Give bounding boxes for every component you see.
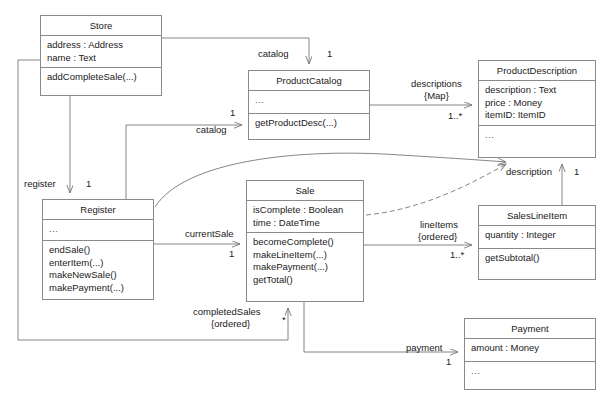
operation: getTotal() xyxy=(253,274,357,287)
class-box-store[interactable]: Store address : Address name : Text addC… xyxy=(40,15,162,96)
association-constraint-sale-lineitems: {ordered} xyxy=(418,231,457,243)
operation: makeNewSale() xyxy=(49,269,147,282)
class-operations-register: endSale() enterItem(...) makeNewSale() m… xyxy=(43,241,153,297)
operation: addCompleteSale(...) xyxy=(47,71,155,84)
association-multiplicity-store-catalog: 1 xyxy=(327,48,332,59)
class-name-store: Store xyxy=(41,16,161,36)
association-multiplicity-catalog-descriptions: 1..* xyxy=(448,110,462,121)
class-name-sales-line-item: SalesLineItem xyxy=(479,206,595,226)
attribute: name : Text xyxy=(47,52,155,65)
class-name-product-catalog: ProductCatalog xyxy=(249,71,369,91)
association-multiplicity-store-register: 1 xyxy=(86,178,91,189)
operation: makeLineItem(...) xyxy=(253,249,357,262)
operation: enterItem(...) xyxy=(49,257,147,270)
association-multiplicity-lineitem-description: 1 xyxy=(574,166,579,177)
association-multiplicity-register-currentsale: 1 xyxy=(229,248,234,259)
association-role-store-completedsales: completedSales xyxy=(193,306,261,318)
class-operations-payment: ... xyxy=(465,362,595,381)
attribute: address : Address xyxy=(47,39,155,52)
association-constraint-catalog-descriptions: {Map} xyxy=(424,90,449,102)
attribute: ... xyxy=(255,94,363,107)
attribute: time : DateTime xyxy=(253,217,357,230)
class-operations-product-catalog: getProductDesc(...) xyxy=(249,114,369,133)
association-multiplicity-sale-lineitems: 1..* xyxy=(450,249,464,260)
attribute: amount : Money xyxy=(471,342,589,355)
association-role-sale-payment: payment xyxy=(406,342,442,354)
class-name-sale: Sale xyxy=(247,181,363,201)
class-operations-sales-line-item: getSubtotal() xyxy=(479,249,595,268)
class-attributes-sale: isComplete : Boolean time : DateTime xyxy=(247,201,363,233)
association-role-store-catalog: catalog xyxy=(258,48,289,60)
operation: makePayment(...) xyxy=(253,261,357,274)
class-name-product-description: ProductDescription xyxy=(479,61,595,81)
attribute: ... xyxy=(49,223,147,236)
association-multiplicity-register-catalog: 1 xyxy=(230,107,235,118)
operation: getProductDesc(...) xyxy=(255,117,363,130)
class-box-sales-line-item[interactable]: SalesLineItem quantity : Integer getSubt… xyxy=(478,205,596,280)
attribute: quantity : Integer xyxy=(485,229,589,242)
attribute: itemID: ItemID xyxy=(485,109,589,122)
association-role-sale-lineitems: lineItems xyxy=(420,219,458,231)
class-box-payment[interactable]: Payment amount : Money ... xyxy=(464,318,596,390)
class-attributes-product-description: description : Text price : Money itemID:… xyxy=(479,81,595,126)
association-constraint-store-completedsales: {ordered} xyxy=(211,318,250,330)
class-box-register[interactable]: Register ... endSale() enterItem(...) ma… xyxy=(42,199,154,300)
association-multiplicity-store-completedsales: * xyxy=(282,314,286,325)
class-attributes-sales-line-item: quantity : Integer xyxy=(479,226,595,249)
operation: getSubtotal() xyxy=(485,252,589,265)
class-box-sale[interactable]: Sale isComplete : Boolean time : DateTim… xyxy=(246,180,364,302)
operation: endSale() xyxy=(49,244,147,257)
association-role-register-catalog: catalog xyxy=(196,124,227,136)
class-name-payment: Payment xyxy=(465,319,595,339)
association-role-lineitem-description: description xyxy=(506,166,552,178)
class-name-register: Register xyxy=(43,200,153,220)
association-role-register-currentsale: currentSale xyxy=(185,228,234,240)
operation: makePayment(...) xyxy=(49,282,147,295)
class-operations-sale: becomeComplete() makeLineItem(...) makeP… xyxy=(247,233,363,289)
edge-register-catalog xyxy=(126,125,242,199)
association-role-store-register: register xyxy=(24,178,56,190)
attribute: description : Text xyxy=(485,84,589,97)
class-attributes-register: ... xyxy=(43,220,153,241)
class-box-product-description[interactable]: ProductDescription description : Text pr… xyxy=(478,60,596,158)
class-operations-product-description: ... xyxy=(479,126,595,145)
class-box-product-catalog[interactable]: ProductCatalog ... getProductDesc(...) xyxy=(248,70,370,140)
class-attributes-product-catalog: ... xyxy=(249,91,369,114)
attribute: price : Money xyxy=(485,97,589,110)
class-attributes-store: address : Address name : Text xyxy=(41,36,161,68)
class-attributes-payment: amount : Money xyxy=(465,339,595,362)
attribute: isComplete : Boolean xyxy=(253,204,357,217)
association-role-catalog-descriptions: descriptions xyxy=(411,78,462,90)
uml-diagram-canvas: Store address : Address name : Text addC… xyxy=(0,0,610,405)
operation: ... xyxy=(471,365,589,378)
operation: ... xyxy=(485,129,589,142)
association-multiplicity-sale-payment: 1 xyxy=(446,356,451,367)
class-operations-store: addCompleteSale(...) xyxy=(41,68,161,87)
operation: becomeComplete() xyxy=(253,236,357,249)
